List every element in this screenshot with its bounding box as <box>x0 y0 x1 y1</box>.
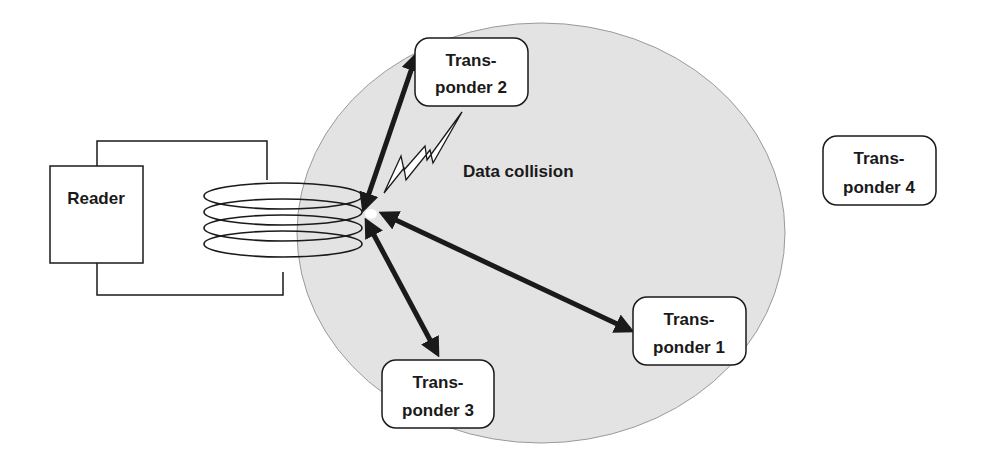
transponder-2-label-line1: Trans- <box>445 51 496 70</box>
transponder-3-node: Trans- ponder 3 <box>382 360 494 428</box>
transponder-4-label-line2: ponder 4 <box>843 178 915 197</box>
reader-node: Reader <box>50 166 143 263</box>
reader-label: Reader <box>67 189 125 208</box>
transponder-4-node: Trans- ponder 4 <box>823 136 936 205</box>
transponder-2-node: Trans- ponder 2 <box>415 38 528 106</box>
rfid-collision-diagram: Reader Data collision Trans- ponder 2 Tr… <box>0 0 986 465</box>
transponder-1-label-line2: ponder 1 <box>653 338 725 357</box>
transponder-4-label-line1: Trans- <box>853 149 904 168</box>
transponder-1-node: Trans- ponder 1 <box>633 297 746 365</box>
transponder-3-label-line2: ponder 3 <box>402 401 474 420</box>
transponder-1-label-line1: Trans- <box>663 310 714 329</box>
data-collision-label: Data collision <box>463 162 574 181</box>
transponder-2-label-line2: ponder 2 <box>435 78 507 97</box>
coupling-point <box>365 209 377 219</box>
antenna-wire-bottom <box>97 263 283 295</box>
transponder-3-label-line1: Trans- <box>412 373 463 392</box>
reader-box <box>50 166 143 263</box>
